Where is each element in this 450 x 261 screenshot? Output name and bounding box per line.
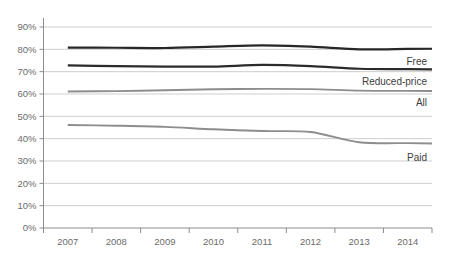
y-tick-label: 0% bbox=[23, 222, 37, 233]
y-tick-label: 40% bbox=[17, 133, 37, 144]
x-tick-label-2012: 2012 bbox=[300, 236, 321, 247]
series-label-all: All bbox=[416, 97, 427, 108]
y-tick-label: 70% bbox=[17, 66, 37, 77]
x-tick-label-2009: 2009 bbox=[154, 236, 175, 247]
y-tick-label: 50% bbox=[17, 111, 37, 122]
x-tick-label-2010: 2010 bbox=[203, 236, 224, 247]
y-tick-label: 90% bbox=[17, 21, 37, 32]
x-tick-label-2007: 2007 bbox=[57, 236, 78, 247]
x-tick-label-2011: 2011 bbox=[252, 236, 272, 247]
x-tick-label-2008: 2008 bbox=[106, 236, 127, 247]
series-line-all bbox=[68, 89, 432, 92]
chart-canvas: 0%10%20%30%40%50%60%70%80%90% 2007200820… bbox=[0, 0, 450, 261]
y-tick-label: 20% bbox=[17, 178, 37, 189]
y-tick-label: 10% bbox=[17, 200, 37, 211]
series-label-reduced-price: Reduced-price bbox=[362, 76, 427, 87]
x-axis-tick-labels: 20072008200920102011201220132014 bbox=[57, 236, 418, 247]
data-series bbox=[68, 45, 432, 143]
y-tick-label: 80% bbox=[17, 44, 37, 55]
series-label-free: Free bbox=[406, 56, 427, 67]
x-tick-label-2014: 2014 bbox=[397, 236, 418, 247]
series-line-free bbox=[68, 45, 432, 49]
series-line-paid bbox=[68, 125, 432, 143]
line-chart: 0%10%20%30%40%50%60%70%80%90% 2007200820… bbox=[0, 0, 450, 261]
gridlines bbox=[44, 27, 433, 206]
series-line-reduced-price bbox=[68, 65, 432, 69]
y-tick-marks bbox=[40, 27, 44, 228]
y-tick-label: 60% bbox=[17, 88, 37, 99]
y-axis-tick-labels: 0%10%20%30%40%50%60%70%80%90% bbox=[17, 21, 37, 233]
y-tick-label: 30% bbox=[17, 155, 37, 166]
x-tick-label-2013: 2013 bbox=[349, 236, 370, 247]
series-label-paid: Paid bbox=[407, 152, 427, 163]
x-tick-marks bbox=[44, 228, 433, 233]
